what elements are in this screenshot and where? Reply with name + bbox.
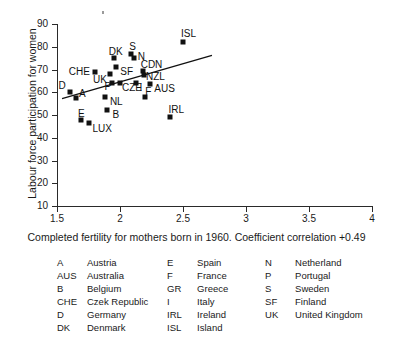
legend-country-code: N — [265, 257, 295, 268]
legend-row: UKUnited Kingdom — [265, 308, 377, 321]
data-point-label: F — [145, 87, 151, 97]
legend-country-name: Denmark — [87, 322, 126, 333]
legend-row: SSweden — [265, 282, 377, 295]
legend-row: NNetherland — [265, 256, 377, 269]
data-point-label: NZL — [146, 72, 165, 82]
legend-country-code: S — [265, 283, 295, 294]
legend-country-code: ISL — [167, 322, 197, 333]
y-tick-label: 60 — [37, 87, 48, 97]
x-tick-label: 3.5 — [302, 214, 316, 224]
data-point-label: S — [129, 42, 136, 52]
x-tick-label: 2 — [117, 214, 123, 224]
data-point — [148, 82, 153, 87]
y-axis-title: Labour force participation for women — [27, 19, 38, 209]
legend-country-code: F — [167, 270, 197, 281]
legend-column: ESpainFFranceGRGreeceIItalyIRLIrelandISL… — [167, 256, 265, 334]
data-point-label: IRL — [168, 105, 184, 115]
data-point-label: I — [139, 83, 142, 93]
data-point-label: LUX — [93, 124, 112, 134]
y-tick-label: 40 — [37, 133, 48, 143]
legend-country-code: UK — [265, 309, 295, 320]
legend-country-code: A — [57, 257, 87, 268]
legend-country-name: Germany — [87, 309, 126, 320]
y-tick-label: 10 — [37, 201, 48, 211]
legend-row: AUSAustralia — [57, 269, 167, 282]
y-tick-label: 80 — [37, 42, 48, 52]
data-point — [107, 72, 112, 77]
legend-country-code: I — [167, 296, 197, 307]
legend-row: GRGreece — [167, 282, 265, 295]
x-tick-mark — [183, 207, 184, 212]
legend-country-code: SF — [265, 296, 295, 307]
data-point-label: P — [104, 82, 111, 92]
x-tick-mark — [309, 207, 310, 212]
data-point — [86, 120, 91, 125]
legend-country-code: E — [167, 257, 197, 268]
legend-country-name: Spain — [197, 257, 221, 268]
legend-country-name: Belgium — [87, 283, 121, 294]
y-tick-label: 90 — [37, 19, 48, 29]
scatter-chart-figure: 102030405060708090 1.522.533.54 Labour f… — [0, 0, 393, 337]
legend-country-name: Netherland — [295, 257, 341, 268]
legend-country-name: Italy — [197, 296, 214, 307]
x-tick-mark — [120, 207, 121, 212]
legend-country-name: Czek Republic — [87, 296, 148, 307]
plot-area: DAELUXCHENLBUKDKPSFCZESNICDNNZLFAUSIRLIS… — [57, 24, 372, 206]
data-point — [102, 94, 107, 99]
legend-country-name: France — [197, 270, 227, 281]
legend-country-name: Sweden — [295, 283, 329, 294]
x-tick-label: 4 — [369, 214, 375, 224]
data-point-label: SF — [120, 67, 133, 77]
data-point-label: D — [59, 81, 66, 91]
legend-row: IItaly — [167, 295, 265, 308]
x-tick-label: 1.5 — [50, 214, 64, 224]
legend-country-code: GR — [167, 283, 197, 294]
legend-row: CHECzek Republic — [57, 295, 167, 308]
data-point-label: B — [112, 110, 119, 120]
y-tick-label: 20 — [37, 178, 48, 188]
legend-row: ESpain — [167, 256, 265, 269]
data-point — [105, 108, 110, 113]
y-tick-label: 70 — [37, 65, 48, 75]
legend-country-name: Australia — [87, 270, 124, 281]
y-tick-label: 50 — [37, 110, 48, 120]
legend-country-name: United Kingdom — [295, 309, 363, 320]
legend-country-name: Finland — [295, 296, 326, 307]
x-tick-label: 2.5 — [176, 214, 190, 224]
legend-row: AAustria — [57, 256, 167, 269]
scan-artifact-speck — [102, 11, 104, 14]
legend-country-code: B — [57, 283, 87, 294]
data-point-label: E — [78, 109, 85, 119]
legend-row: DKDenmark — [57, 321, 167, 334]
data-point-label: NL — [110, 97, 123, 107]
legend-country-code: DK — [57, 322, 87, 333]
legend-country-code: P — [265, 270, 295, 281]
legend-row: FFrance — [167, 269, 265, 282]
x-axis-title: Completed fertility for mothers born in … — [0, 231, 393, 243]
legend-country-name: Austria — [87, 257, 117, 268]
legend-country-code: IRL — [167, 309, 197, 320]
x-tick-label: 3 — [243, 214, 249, 224]
data-point-label: CDN — [141, 60, 163, 70]
data-point-label: DK — [109, 47, 123, 57]
legend-country-code: AUS — [57, 270, 87, 281]
legend-column: NNetherlandPPortugalSSwedenSFFinlandUKUn… — [265, 256, 377, 334]
legend-country-code: CHE — [57, 296, 87, 307]
x-tick-mark — [372, 207, 373, 212]
legend-row: DGermany — [57, 308, 167, 321]
data-point-label: ISL — [181, 29, 196, 39]
legend-country-name: Greece — [197, 283, 228, 294]
legend-row: PPortugal — [265, 269, 377, 282]
legend-country-name: Ireland — [197, 309, 226, 320]
data-point — [181, 40, 186, 45]
y-tick-label: 30 — [37, 156, 48, 166]
legend-row: SFFinland — [265, 295, 377, 308]
x-tick-mark — [246, 207, 247, 212]
data-point — [168, 115, 173, 120]
legend-country-name: Portugal — [295, 270, 330, 281]
data-point-label: AUS — [154, 84, 175, 94]
x-tick-mark — [57, 207, 58, 212]
data-point — [131, 56, 136, 61]
legend-row: IRLIreland — [167, 308, 265, 321]
data-point — [73, 95, 78, 100]
